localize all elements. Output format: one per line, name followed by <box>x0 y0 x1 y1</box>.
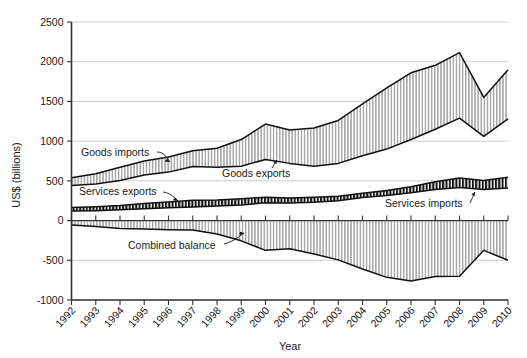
x-tick-label: 2008 <box>441 304 466 329</box>
x-tick-label: 2007 <box>417 304 442 329</box>
y-tick-label: 1000 <box>40 135 64 147</box>
annotation-services-exports-label: Services exports <box>79 185 157 197</box>
y-axis-title: US$ (billions) <box>10 142 22 207</box>
annotation-goods-imports-label: Goods imports <box>81 146 149 158</box>
x-tick-label: 2003 <box>320 304 345 329</box>
x-tick-label: 2009 <box>465 304 490 329</box>
x-tick-label: 2002 <box>295 304 320 329</box>
x-tick-label: 2010 <box>489 304 514 329</box>
y-tick-labels: 25002000150010005000-500-1000 <box>37 16 64 306</box>
x-tick-label: 2001 <box>271 304 296 329</box>
x-tick-label: 1995 <box>126 304 151 329</box>
y-tick-label: 1500 <box>40 95 64 107</box>
annotation-goods-exports-label: Goods exports <box>222 167 290 179</box>
x-tick-labels: 1992199319941995199619971998199920002001… <box>53 304 514 329</box>
x-tick-label: 2004 <box>344 304 369 329</box>
annotation-services-imports-label: Services imports <box>385 197 463 209</box>
x-tick-label: 2005 <box>368 304 393 329</box>
y-tick-label: -500 <box>42 254 63 266</box>
y-tick-label: 2000 <box>40 55 64 67</box>
x-tick-label: 1997 <box>174 304 199 329</box>
y-tick-label: 0 <box>58 214 64 226</box>
annotation-services-exports: Services exports <box>79 185 178 201</box>
leader-arrowhead <box>173 198 178 201</box>
x-tick-label: 1999 <box>223 304 248 329</box>
annotation-combined-balance-label: Combined balance <box>128 239 216 251</box>
x-tick-label: 1994 <box>101 304 126 329</box>
y-tick-label: 500 <box>46 175 64 187</box>
trade-balance-area-chart: 25002000150010005000-500-1000 1992199319… <box>0 0 527 358</box>
x-tick-label: 2000 <box>247 304 272 329</box>
x-tick-label: 2006 <box>392 304 417 329</box>
x-tick-label: 1996 <box>150 304 175 329</box>
x-tick-label: 1993 <box>77 304 102 329</box>
x-axis-title: Year <box>279 340 302 352</box>
x-tick-label: 1992 <box>53 304 78 329</box>
y-tick-label: 2500 <box>40 16 64 28</box>
series-goods-band <box>72 53 509 186</box>
y-tick-label: -1000 <box>37 294 64 306</box>
chart-container: 25002000150010005000-500-1000 1992199319… <box>0 0 527 358</box>
x-tick-label: 1998 <box>198 304 223 329</box>
